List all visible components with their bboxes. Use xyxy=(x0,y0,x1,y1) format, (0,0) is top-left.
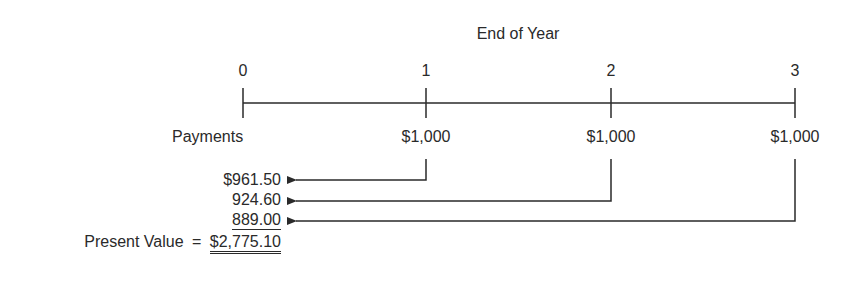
period-label-1: 1 xyxy=(422,62,431,80)
discounted-value-2: 924.60 xyxy=(181,191,281,209)
timeline-title: End of Year xyxy=(477,25,560,43)
discounted-value-3: 889.00 xyxy=(232,211,281,230)
present-value-label: Present Value xyxy=(84,233,183,250)
payment-period-2: $1,000 xyxy=(587,128,636,146)
present-value-total: $2,775.10 xyxy=(210,233,281,254)
payments-label: Payments xyxy=(172,128,243,146)
period-label-3: 3 xyxy=(791,62,800,80)
arrow-period-3 xyxy=(296,159,795,221)
period-label-2: 2 xyxy=(607,62,616,80)
payment-period-1: $1,000 xyxy=(402,128,451,146)
discounted-value-3-wrap: 889.00 xyxy=(181,211,281,229)
period-label-0: 0 xyxy=(239,62,248,80)
present-value-row: Present Value = $2,775.10 xyxy=(30,233,281,251)
equals-sign: = xyxy=(192,233,201,250)
discounted-value-1: $961.50 xyxy=(181,171,281,189)
payment-period-3: $1,000 xyxy=(771,128,820,146)
arrow-period-1 xyxy=(296,159,426,180)
